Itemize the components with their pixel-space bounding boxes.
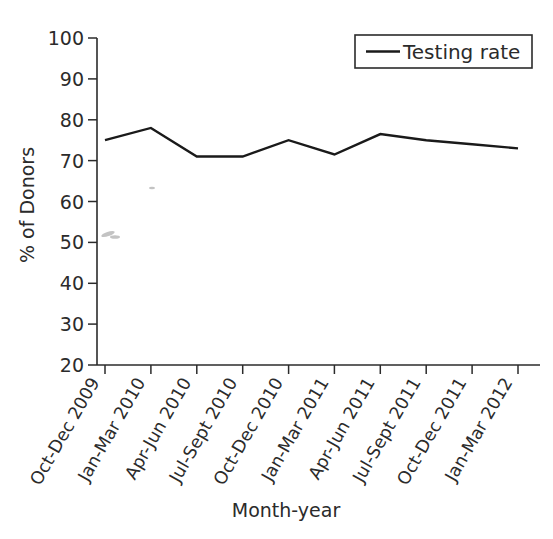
chart-figure: 100 90 80 70 60 50 40 30 20 Oct-Dec 2009	[0, 0, 553, 539]
y-tick-label-20: 20	[60, 354, 84, 376]
y-tick-label-40: 40	[60, 272, 84, 294]
line-chart-canvas: 100 90 80 70 60 50 40 30 20 Oct-Dec 2009	[0, 0, 553, 539]
y-tick-label-80: 80	[60, 109, 84, 131]
y-tick-label-90: 90	[60, 68, 84, 90]
axis-lines	[97, 38, 540, 365]
y-tick-label-100: 100	[48, 27, 84, 49]
series-line-testing-rate	[105, 128, 518, 157]
legend[interactable]: Testing rate	[355, 35, 532, 68]
x-axis-category-labels: Oct-Dec 2009 Jan-Mar 2010 Apr-Jun 2010 J…	[26, 374, 517, 488]
y-tick-label-30: 30	[60, 313, 84, 335]
x-axis-ticks	[105, 365, 518, 374]
y-tick-label-60: 60	[60, 191, 84, 213]
y-axis-title: % of Donors	[16, 147, 38, 263]
x-axis-title: Month-year	[232, 499, 341, 521]
scan-artifact	[101, 187, 155, 239]
y-axis-ticks	[88, 38, 97, 365]
series-group	[105, 128, 518, 157]
y-axis-tick-labels: 100 90 80 70 60 50 40 30 20	[48, 27, 84, 376]
y-tick-label-70: 70	[60, 150, 84, 172]
y-tick-label-50: 50	[60, 231, 84, 253]
legend-label-testing-rate: Testing rate	[402, 40, 520, 64]
